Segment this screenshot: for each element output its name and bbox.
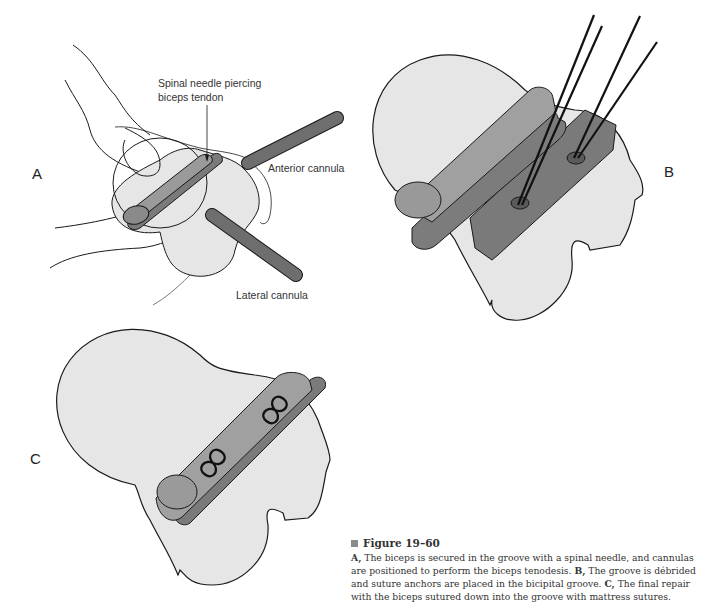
- bone-lower-line: [153, 275, 190, 305]
- figure-marker-icon: [351, 540, 358, 547]
- anterior-cannula: [248, 118, 337, 163]
- anterior-cannula-label: Anterior cannula: [268, 161, 344, 175]
- figure-illustration: [0, 0, 711, 606]
- tendon-end: [157, 475, 197, 509]
- tendon-end: [395, 182, 441, 218]
- caption-body: A, The biceps is secured in the groove w…: [351, 551, 701, 603]
- caption-label-a: A,: [351, 552, 361, 563]
- needle-callout: Spinal needle piercing biceps tendon: [158, 76, 261, 104]
- humerus-bone: [57, 329, 330, 585]
- needle-label-line2: biceps tendon: [158, 90, 261, 104]
- needle-label-line1: Spinal needle piercing: [158, 76, 261, 90]
- arm-outline-upper: [73, 45, 150, 135]
- arm-outline-inner: [65, 80, 150, 175]
- panel-c-illustration: [57, 329, 330, 585]
- panel-label-a: A: [32, 165, 42, 182]
- panel-b-illustration: [373, 15, 657, 320]
- panel-label-b: B: [664, 163, 674, 180]
- figure-caption: Figure 19–60 A, The biceps is secured in…: [351, 537, 701, 603]
- lateral-cannula-label: Lateral cannula: [236, 288, 308, 302]
- caption-label-b: B,: [574, 565, 585, 576]
- caption-label-c: C,: [604, 578, 614, 589]
- figure-number: Figure 19–60: [363, 537, 440, 550]
- figure-heading: Figure 19–60: [351, 537, 701, 550]
- panel-label-c: C: [30, 450, 41, 467]
